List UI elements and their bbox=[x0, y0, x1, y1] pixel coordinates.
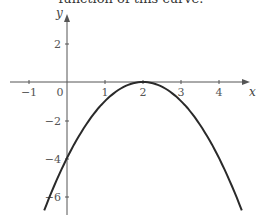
y-tick-label: −2 bbox=[45, 115, 61, 128]
y-axis: 2 −2 −4 −6 y bbox=[45, 6, 70, 215]
x-tick-label: 4 bbox=[216, 86, 223, 99]
x-axis: −1 0 1 2 3 4 x bbox=[10, 79, 256, 99]
parabola-chart: −1 0 1 2 3 4 x 2 −2 −4 −6 y bbox=[0, 0, 262, 224]
x-tick-label: 1 bbox=[102, 86, 109, 99]
y-tick-label: −4 bbox=[45, 153, 61, 166]
parabola-curve bbox=[44, 82, 242, 210]
origin-label: 0 bbox=[57, 86, 64, 99]
x-tick-label: 3 bbox=[178, 86, 185, 99]
x-tick-label: 2 bbox=[140, 86, 147, 99]
y-axis-arrow-icon bbox=[64, 14, 70, 22]
y-axis-label: y bbox=[55, 6, 63, 20]
y-tick-label: 2 bbox=[54, 38, 61, 51]
x-tick-label: −1 bbox=[21, 86, 37, 99]
x-axis-label: x bbox=[249, 85, 256, 99]
